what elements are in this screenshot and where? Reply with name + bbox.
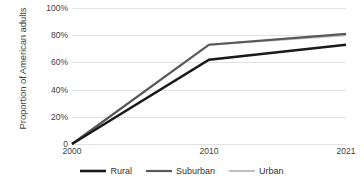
y-axis-tick-label: 60% (51, 57, 68, 67)
legend-label: Rural (110, 166, 132, 176)
legend-label: Suburban (176, 166, 215, 176)
legend-item-rural[interactable]: Rural (80, 166, 132, 176)
y-axis-tick-label: 80% (51, 30, 68, 40)
legend-item-suburban[interactable]: Suburban (146, 166, 215, 176)
legend-swatch-icon (80, 166, 106, 176)
plot-area (72, 8, 346, 144)
series-lines (72, 8, 346, 144)
series-line-urban (72, 35, 346, 144)
chart-legend: RuralSuburbanUrban (0, 166, 364, 176)
x-axis-tick-label: 2000 (63, 146, 82, 156)
x-axis-tick-label: 2010 (200, 146, 219, 156)
line-chart: Proportion of American adults 100%80%60%… (0, 0, 364, 186)
x-axis-tick-label: 2021 (337, 146, 356, 156)
y-axis-tick-labels: 100%80%60%40%20%0 (34, 0, 70, 186)
series-line-rural (72, 45, 346, 144)
legend-label: Urban (259, 166, 284, 176)
legend-item-urban[interactable]: Urban (229, 166, 284, 176)
y-axis-tick-label: 20% (51, 112, 68, 122)
y-axis-tick-label: 100% (46, 3, 68, 13)
y-axis-title: Proportion of American adults (17, 0, 28, 139)
x-axis-tick-labels: 200020102021 (72, 146, 346, 162)
gridline (72, 144, 346, 145)
legend-swatch-icon (229, 166, 255, 176)
y-axis-tick-label: 40% (51, 85, 68, 95)
legend-swatch-icon (146, 166, 172, 176)
